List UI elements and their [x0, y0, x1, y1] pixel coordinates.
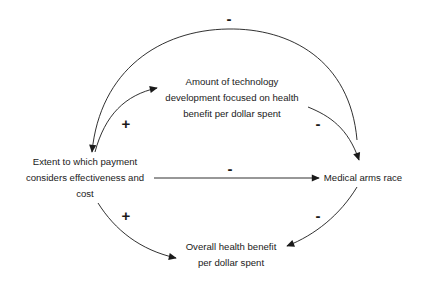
node-line: Medical arms race: [319, 170, 407, 186]
node-overall-health-benefit: Overall health benefit per dollar spent: [176, 239, 286, 271]
node-line: benefit per dollar spent: [160, 106, 304, 122]
node-line: Overall health benefit: [176, 239, 286, 255]
polarity-payment-to-overall: +: [119, 208, 133, 223]
node-line: considers effectiveness and: [18, 170, 152, 186]
polarity-arms-to-overall: -: [311, 208, 325, 223]
node-line: per dollar spent: [176, 255, 286, 271]
node-line: cost: [18, 186, 152, 202]
node-technology-development: Amount of technology development focused…: [160, 74, 304, 122]
node-payment-effectiveness: Extent to which payment considers effect…: [18, 154, 152, 202]
node-medical-arms-race: Medical arms race: [319, 170, 407, 186]
node-line: Amount of technology: [160, 74, 304, 90]
node-line: development focused on health: [160, 90, 304, 106]
polarity-top-arc: -: [222, 11, 236, 26]
polarity-payment-to-arms: -: [223, 161, 237, 176]
polarity-tech-to-arms: -: [311, 116, 325, 131]
polarity-payment-to-tech: +: [119, 116, 133, 131]
node-line: Extent to which payment: [18, 154, 152, 170]
link-payment-to-overall: [98, 203, 176, 258]
